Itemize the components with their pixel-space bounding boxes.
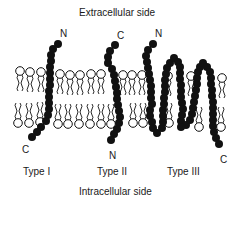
- type-iii-label: Type III: [167, 166, 200, 177]
- intracellular-side-label: Intracellular side: [79, 186, 152, 197]
- type-ii-label: Type II: [97, 166, 127, 177]
- type-iii-n-terminus: N: [155, 28, 162, 39]
- type-iii-protein: [142, 40, 223, 148]
- type-ii-c-terminus: C: [117, 30, 124, 41]
- type-ii-protein: [104, 41, 124, 144]
- type-iii-c-terminus: C: [220, 154, 227, 165]
- type-i-label: Type I: [23, 166, 50, 177]
- type-i-c-terminus: C: [22, 144, 29, 155]
- type-ii-n-terminus: N: [109, 150, 116, 161]
- type-i-n-terminus: N: [60, 28, 67, 39]
